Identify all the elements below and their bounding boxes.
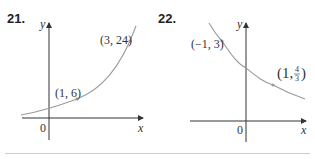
label-3-24: (3, 24) bbox=[100, 33, 132, 47]
x-label: x bbox=[137, 121, 144, 135]
point-1-4-3 bbox=[271, 83, 274, 86]
svg-text:3: 3 bbox=[295, 74, 299, 83]
svg-text:): ) bbox=[301, 65, 306, 82]
svg-text:4: 4 bbox=[295, 65, 299, 74]
y-label: y bbox=[39, 17, 46, 31]
curve-22 bbox=[209, 23, 305, 99]
svg-text:(1,: (1, bbox=[277, 65, 293, 82]
origin-label: 0 bbox=[40, 121, 46, 135]
label-1-4-3: (1, 4 3 ) bbox=[277, 65, 306, 83]
x-label: x bbox=[300, 123, 307, 137]
divider-rule bbox=[5, 153, 310, 154]
graph-21: (1, 6) (3, 24) y x 0 bbox=[21, 17, 144, 140]
y-label: y bbox=[236, 17, 243, 31]
label-neg1-3: (−1, 3) bbox=[191, 37, 224, 51]
origin-label: 0 bbox=[237, 123, 243, 137]
graphs: (1, 6) (3, 24) y x 0 (−1, 3) (1, 4 3 ) y… bbox=[0, 0, 315, 159]
graph-22: (−1, 3) (1, 4 3 ) y x 0 bbox=[190, 17, 307, 142]
label-1-6: (1, 6) bbox=[55, 86, 81, 100]
